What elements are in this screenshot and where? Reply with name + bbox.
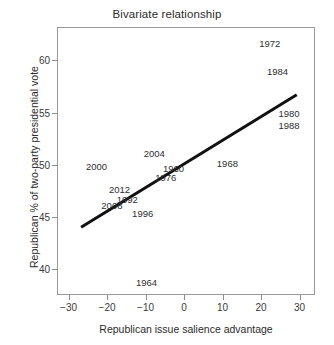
y-tick-mark	[52, 165, 57, 166]
y-tick-label: 45	[39, 211, 50, 222]
y-tick-mark	[52, 113, 57, 114]
x-tick-label: −10	[137, 302, 154, 313]
x-tick-label: −30	[60, 302, 77, 313]
data-point-label-2012: 2012	[109, 183, 130, 194]
x-tick-label: 10	[217, 302, 228, 313]
plot-panel: 1960196419681972197619801984198819921996…	[57, 27, 315, 295]
data-point-label-1972: 1972	[259, 37, 280, 48]
y-tick-label: 60	[39, 55, 50, 66]
data-point-label-1968: 1968	[217, 157, 238, 168]
y-tick-label: 50	[39, 159, 50, 170]
data-point-label-1984: 1984	[267, 65, 288, 76]
x-tick-label: 0	[181, 302, 187, 313]
data-point-label-2008: 2008	[101, 200, 122, 211]
y-tick-label: 40	[39, 263, 50, 274]
data-point-label-2000: 2000	[86, 160, 107, 171]
y-axis-title: Republican % of two-party presidential v…	[28, 47, 40, 287]
x-tick-label: 30	[294, 302, 305, 313]
data-point-label-1996: 1996	[132, 207, 153, 218]
y-tick-label: 55	[39, 107, 50, 118]
data-point-label-1988: 1988	[278, 120, 299, 131]
x-tick-mark	[300, 295, 301, 300]
x-tick-mark	[146, 295, 147, 300]
x-tick-mark	[184, 295, 185, 300]
data-point-label-2004: 2004	[144, 148, 165, 159]
data-point-label-1964: 1964	[136, 277, 157, 288]
x-tick-mark	[223, 295, 224, 300]
x-tick-label: 20	[256, 302, 267, 313]
x-tick-label: −20	[99, 302, 116, 313]
plot-area: 1960196419681972197619801984198819921996…	[58, 28, 314, 294]
data-point-label-1980: 1980	[278, 107, 299, 118]
y-tick-mark	[52, 217, 57, 218]
y-tick-mark	[52, 269, 57, 270]
data-point-label-1976: 1976	[155, 172, 176, 183]
bivariate-relationship-chart: Bivariate relationship 19601964196819721…	[0, 0, 334, 345]
y-tick-mark	[52, 60, 57, 61]
x-tick-mark	[107, 295, 108, 300]
x-tick-mark	[69, 295, 70, 300]
x-axis-title: Republican issue salience advantage	[57, 323, 315, 335]
x-tick-mark	[261, 295, 262, 300]
chart-title: Bivariate relationship	[0, 8, 334, 20]
